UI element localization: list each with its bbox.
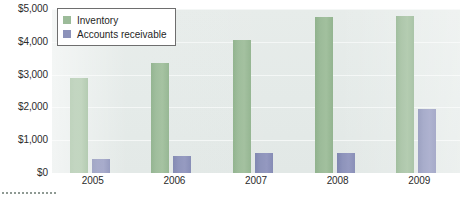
- chart-legend: Inventory Accounts receivable: [57, 8, 176, 46]
- bar-accounts-receivable: [337, 153, 355, 173]
- bar-group: [233, 9, 273, 173]
- legend-item-label: Accounts receivable: [77, 29, 167, 40]
- x-axis-tick-label: 2008: [297, 175, 379, 187]
- bar-accounts-receivable: [255, 153, 273, 173]
- square-swatch-green-icon: [63, 16, 71, 24]
- y-axis-tick-label: $3,000: [0, 70, 48, 80]
- square-swatch-blue-icon: [63, 30, 71, 38]
- bar-accounts-receivable: [418, 109, 436, 173]
- bar-accounts-receivable: [173, 156, 191, 173]
- bar-group: [396, 9, 436, 173]
- y-axis-tick-label: $5,000: [0, 4, 48, 14]
- bar-inventory: [151, 63, 169, 173]
- x-axis-tick-label: 2006: [134, 175, 216, 187]
- bar-inventory: [233, 40, 251, 173]
- x-axis-tick-label: 2005: [52, 175, 134, 187]
- bar-inventory: [70, 78, 88, 173]
- legend-item-inventory: Inventory: [63, 13, 167, 27]
- bar-group: [315, 9, 355, 173]
- legend-item-accounts-receivable: Accounts receivable: [63, 27, 167, 41]
- legend-item-label: Inventory: [77, 15, 118, 26]
- y-axis-tick-label: $4,000: [0, 37, 48, 47]
- x-axis-tick-label: 2009: [378, 175, 460, 187]
- y-axis-tick-label: $1,000: [0, 135, 48, 145]
- bar-accounts-receivable: [92, 159, 110, 173]
- y-axis-tick-label: $2,000: [0, 102, 48, 112]
- y-axis: $5,000 $4,000 $3,000 $2,000 $1,000 $0: [0, 0, 48, 175]
- x-axis: 20052006200720082009: [52, 175, 460, 191]
- bar-inventory: [315, 17, 333, 173]
- bar-chart: $5,000 $4,000 $3,000 $2,000 $1,000 $0 20…: [0, 0, 472, 199]
- bar-inventory: [396, 16, 414, 173]
- y-axis-tick-label: $0: [0, 168, 48, 178]
- x-axis-tick-label: 2007: [215, 175, 297, 187]
- dotted-rule: [2, 192, 56, 194]
